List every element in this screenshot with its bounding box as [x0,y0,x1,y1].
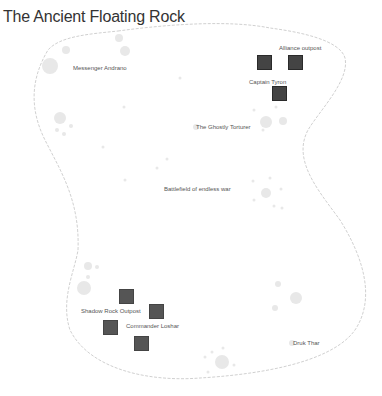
location-label[interactable]: Battlefield of endless war [164,186,231,192]
location-label[interactable]: The Ghostly Torturer [196,124,251,130]
map-marker[interactable] [257,55,272,70]
map-marker[interactable] [272,86,287,101]
location-label[interactable]: Messenger Andrano [73,65,127,71]
map-marker[interactable] [134,336,149,351]
island-border [34,24,366,379]
location-label[interactable]: Druk Thar [293,340,320,346]
map-marker[interactable] [288,55,303,70]
location-label[interactable]: Alliance outpost [279,45,321,51]
location-label[interactable]: Captain Tyron [249,79,286,85]
location-label[interactable]: Commander Loshar [126,323,179,329]
map-marker[interactable] [103,320,118,335]
map-marker[interactable] [149,304,164,319]
map-marker[interactable] [119,289,134,304]
map-canvas[interactable] [0,0,382,396]
location-label[interactable]: Shadow Rock Outpost [81,308,141,314]
